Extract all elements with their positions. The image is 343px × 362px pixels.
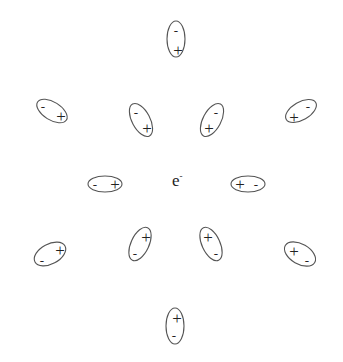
negative-charge-sign: -: [41, 99, 45, 114]
positive-charge-sign: +: [55, 241, 65, 260]
positive-charge-sign: +: [204, 119, 214, 138]
dipole-middle-right: -+: [231, 175, 265, 194]
electron-charge-superscript: -: [180, 171, 183, 181]
positive-charge-sign: +: [289, 242, 299, 261]
positive-charge-sign: +: [173, 41, 183, 60]
positive-charge-sign: +: [110, 175, 120, 194]
negative-charge-sign: -: [40, 253, 44, 268]
positive-charge-sign: +: [172, 309, 182, 328]
diagram-canvas: -+-+-+-+-+-+-+-+-+-+-+-+ e-: [0, 0, 343, 362]
dipole-upper-inner-left: -+: [125, 100, 158, 140]
positive-charge-sign: +: [203, 228, 213, 247]
electron-symbol: e: [172, 171, 180, 190]
dipole-upper-inner-right: -+: [196, 100, 229, 140]
dipole-ellipse: [124, 224, 156, 264]
positive-charge-sign: +: [56, 107, 66, 126]
dipole-lower-outer-left: -+: [30, 237, 69, 271]
dipole-ellipse: [282, 95, 320, 128]
dipole-ellipse: [280, 237, 319, 271]
electron-label: e-: [172, 171, 183, 190]
dipole-upper-outer-right: -+: [282, 95, 320, 128]
positive-charge-sign: +: [289, 108, 299, 127]
negative-charge-sign: -: [214, 105, 218, 120]
dipole-lower-outer-right: -+: [280, 237, 319, 271]
dipole-lower-inner-right: -+: [195, 224, 227, 264]
dipole-diagram: -+-+-+-+-+-+-+-+-+-+-+-+ e-: [0, 0, 343, 362]
negative-charge-sign: -: [93, 177, 97, 192]
dipole-lower-inner-left: -+: [124, 224, 156, 264]
negative-charge-sign: -: [133, 246, 137, 261]
dipole-upper-outer-left: -+: [33, 94, 71, 127]
dipole-top: -+: [167, 21, 185, 60]
dipole-bottom: -+: [166, 308, 184, 344]
positive-charge-sign: +: [142, 119, 152, 138]
negative-charge-sign: -: [254, 177, 258, 192]
dipole-ellipse: [125, 100, 158, 140]
negative-charge-sign: -: [305, 253, 309, 268]
positive-charge-sign: +: [141, 228, 151, 247]
negative-charge-sign: -: [306, 99, 310, 114]
positive-charge-sign: +: [235, 175, 245, 194]
dipole-middle-left: -+: [88, 175, 122, 194]
negative-charge-sign: -: [174, 23, 178, 38]
negative-charge-sign: -: [214, 246, 218, 261]
negative-charge-sign: -: [134, 105, 138, 120]
negative-charge-sign: -: [172, 328, 176, 343]
